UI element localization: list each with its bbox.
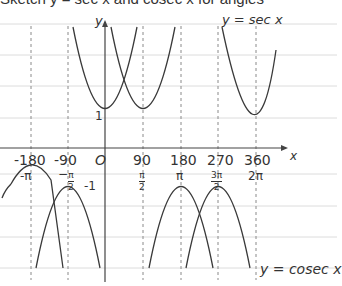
x-rad-pi: π: [176, 170, 183, 182]
y-axis-label: y: [95, 14, 103, 27]
x-rad-three-half-pi: 3π2: [211, 168, 222, 192]
y-tick-1: 1: [95, 110, 103, 122]
ruled-lines: [0, 24, 337, 268]
x-rad-two-pi: 2π: [248, 170, 263, 182]
y-tick-neg1: -1: [84, 180, 96, 192]
sec-label: y = sec x: [222, 13, 283, 26]
sec-branch-360: [222, 27, 276, 115]
x-tick-360: 360: [244, 153, 271, 167]
x-arrow-icon: [281, 145, 288, 151]
x-tick-neg180: -180: [14, 153, 46, 167]
x-tick-90: 90: [133, 153, 151, 167]
x-tick-neg90: -90: [54, 153, 77, 167]
x-tick-origin: O: [95, 153, 106, 167]
x-tick-180: 180: [170, 153, 197, 167]
x-axis-label: x: [290, 150, 297, 162]
x-rad-neg-half-pi: −π2: [58, 168, 74, 192]
x-rad-half-pi: π2: [139, 168, 145, 192]
x-rad-neg-pi: -π: [20, 170, 32, 182]
cosec-branch-neg180: [11, 165, 63, 268]
cosec-label: y = cosec x: [260, 262, 342, 276]
x-tick-270: 270: [207, 153, 234, 167]
